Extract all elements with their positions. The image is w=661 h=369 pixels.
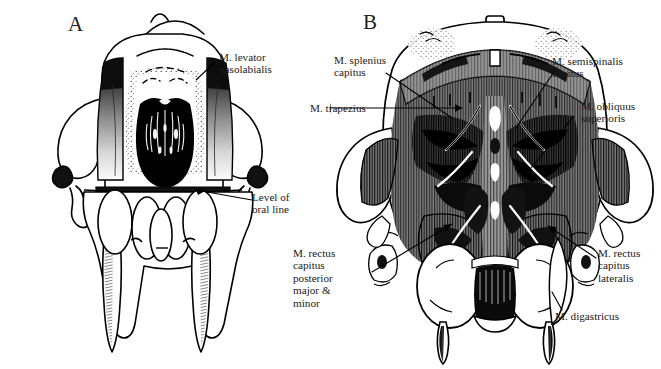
panel-b: B (330, 0, 661, 369)
label-level-of-oral-line: Level of oral line (252, 191, 290, 216)
label-m-trapezius: M. trapezius (310, 102, 366, 114)
label-m-splenius-capitus: M. splenius capitus (334, 54, 386, 79)
label-m-semispinalis-capitus: M. semispinalis capitus (552, 55, 623, 80)
panel-a: A (0, 0, 330, 369)
label-m-rectus-capitus-lateralis: M. rectus capitus lateralis (598, 247, 640, 284)
label-m-levator-nasolabialis: M. levator nasolabialis (219, 51, 272, 76)
label-m-obliquus-superioris: M. obliquus superioris (581, 100, 635, 125)
anatomical-figure: A (0, 0, 661, 369)
label-m-digastricus: M. digastricus (555, 310, 619, 322)
panel-a-artwork (0, 0, 330, 369)
label-m-rectus-capitus-posterior: M. rectus capitus posterior major & mino… (293, 247, 335, 309)
